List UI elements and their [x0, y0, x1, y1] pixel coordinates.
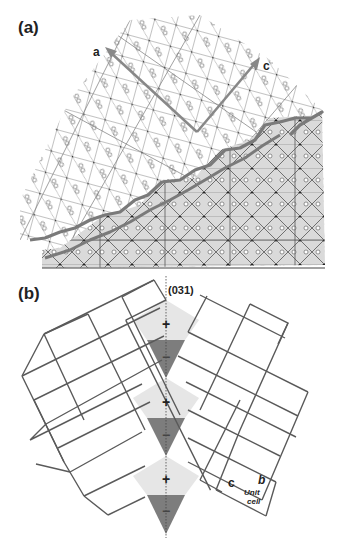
- sign-plus-1: +: [162, 316, 170, 332]
- sign-minus-3: −: [162, 503, 170, 519]
- unit-cell-axis-b: b: [258, 473, 265, 487]
- unit-cell-label-1: Unit: [244, 488, 260, 497]
- sign-minus-2: −: [162, 427, 170, 443]
- plane-label: (031): [168, 284, 194, 296]
- sign-minus-1: −: [162, 349, 170, 365]
- unit-cell-axis-c: c: [228, 476, 235, 490]
- sign-plus-3: +: [162, 471, 170, 487]
- panel-b-diagram: + − + − + − (031) c b Unit cell: [0, 0, 339, 551]
- unit-cell-label-2: cell: [247, 497, 261, 506]
- sign-plus-2: +: [162, 394, 170, 410]
